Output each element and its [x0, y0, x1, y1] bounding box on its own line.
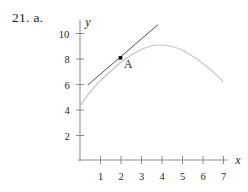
y-tick-label-6: 6	[64, 80, 69, 91]
y-tick-label-10: 10	[59, 29, 70, 40]
y-tick-label-4: 4	[64, 105, 70, 116]
parabola-curve	[80, 45, 223, 106]
x-tick-label-2: 2	[118, 171, 123, 182]
x-axis-label: x	[234, 153, 241, 167]
x-tick-label-7: 7	[221, 171, 226, 182]
x-tick-label-4: 4	[159, 171, 165, 182]
point-a-label: A	[124, 58, 133, 70]
y-axis-label: y	[84, 15, 91, 29]
x-tick-label-6: 6	[200, 171, 205, 182]
figure-container: 21. a. 2 4 6 8 10 1 2 3 4 5 6 7 y x	[0, 0, 248, 192]
y-tick-label-8: 8	[64, 54, 69, 65]
tangent-line	[88, 25, 158, 85]
point-a-marker	[119, 56, 123, 60]
x-tick-label-5: 5	[180, 171, 185, 182]
x-tick-label-3: 3	[139, 171, 144, 182]
graph-plot: 2 4 6 8 10 1 2 3 4 5 6 7 y x A	[0, 0, 248, 192]
y-tick-label-2: 2	[64, 131, 69, 142]
x-tick-label-1: 1	[98, 171, 103, 182]
